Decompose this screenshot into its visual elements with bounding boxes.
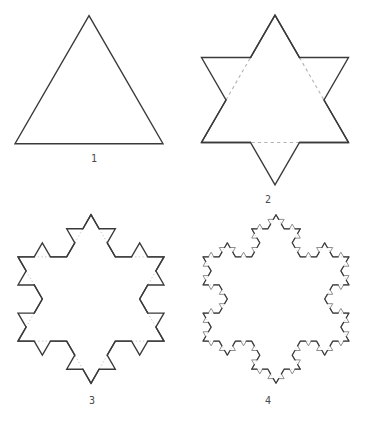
stage-4-snowflake-iteration-3 — [203, 215, 349, 384]
stage-2-label: 2 — [265, 194, 271, 205]
stage-4-label: 4 — [265, 395, 271, 406]
stage-1-label: 1 — [91, 153, 97, 164]
stage-3-label: 3 — [89, 395, 95, 406]
stage-1-triangle — [15, 16, 163, 144]
koch-construction-canvas: 1 2 3 4 — [0, 0, 365, 424]
koch-snowflake-diagram-page: 1 2 3 4 — [0, 0, 365, 424]
stage-3-snowflake-iteration-2 — [18, 215, 164, 384]
stage-2-hexagram — [202, 15, 349, 185]
